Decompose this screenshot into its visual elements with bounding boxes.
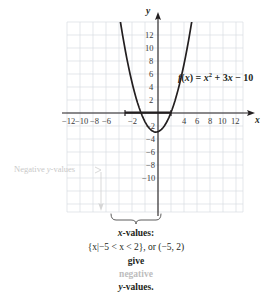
graph-figure: y x −12 −10 −8 −6 −2 4 6 8 10 12 12 10 8… [0, 0, 272, 299]
ytick-label-8: 8 [149, 56, 153, 66]
xtick-label-6: 6 [195, 116, 199, 126]
ytick-label-10: 10 [145, 43, 154, 53]
xtick-label-4: 4 [182, 116, 186, 126]
xtick-label--6: −6 [102, 116, 111, 126]
xtick-label--12: −12 [62, 116, 75, 126]
ytick-label--4: −4 [146, 134, 155, 144]
y-axis-label: y [146, 6, 150, 16]
coordinate-plane-svg [0, 0, 272, 299]
ytick-label-12: 12 [145, 30, 154, 40]
y-axis [155, 12, 161, 216]
interval-brace [111, 214, 161, 224]
xtick-label-10: 10 [218, 116, 227, 126]
xtick-label--10: −10 [75, 116, 88, 126]
negative-values-pointer [95, 167, 101, 173]
ytick-label--8: −8 [146, 160, 155, 170]
negative-y-values-note: Negative y-values [14, 164, 75, 174]
caption-negative: negative [0, 269, 272, 279]
caption-set-notation: {x|−5 < x < 2}, or (−5, 2) [0, 242, 272, 252]
function-label: f(x) = x2 + 3x − 10 [178, 71, 253, 83]
caption-x-values: x-values: [0, 228, 272, 238]
xtick-label-12: 12 [231, 116, 240, 126]
xtick-label-8: 8 [208, 116, 212, 126]
xtick-label--8: −8 [90, 116, 99, 126]
xtick-label--2: −2 [128, 116, 137, 126]
x-axis-label: x [255, 115, 260, 125]
ytick-label-4: 4 [149, 82, 153, 92]
ytick-label-6: 6 [149, 69, 153, 79]
ytick-label--2: −2 [146, 121, 155, 131]
ytick-label-2: 2 [149, 95, 153, 105]
caption-give: give [0, 256, 272, 266]
caption-y-values: y-values. [0, 282, 272, 292]
ytick-label--6: −6 [146, 147, 155, 157]
ytick-label--10: −10 [142, 173, 155, 183]
